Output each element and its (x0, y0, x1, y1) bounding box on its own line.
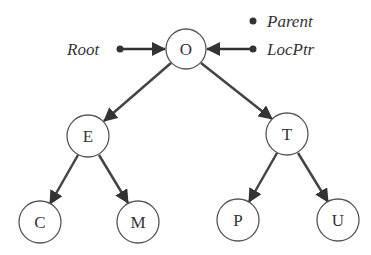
node-p-label: P (233, 211, 242, 230)
edge-t-p (249, 153, 277, 202)
node-t-label: T (282, 125, 293, 144)
node-u-label: U (332, 211, 344, 230)
node-o-label: O (180, 40, 192, 59)
root-label: Root (66, 40, 100, 59)
parent-label: Parent (266, 12, 314, 31)
node-e-label: E (83, 127, 93, 146)
edge-o-t (201, 63, 272, 119)
node-c-label: C (34, 213, 45, 232)
edge-o-e (104, 63, 171, 121)
edge-t-u (298, 153, 328, 202)
edge-e-m (99, 155, 128, 203)
edge-e-c (50, 155, 78, 204)
tree-diagram: Root Parent LocPtr O E T C M P U (0, 0, 371, 255)
locptr-label: LocPtr (266, 40, 315, 59)
node-m-label: M (130, 213, 145, 232)
parent-dot (250, 18, 257, 25)
